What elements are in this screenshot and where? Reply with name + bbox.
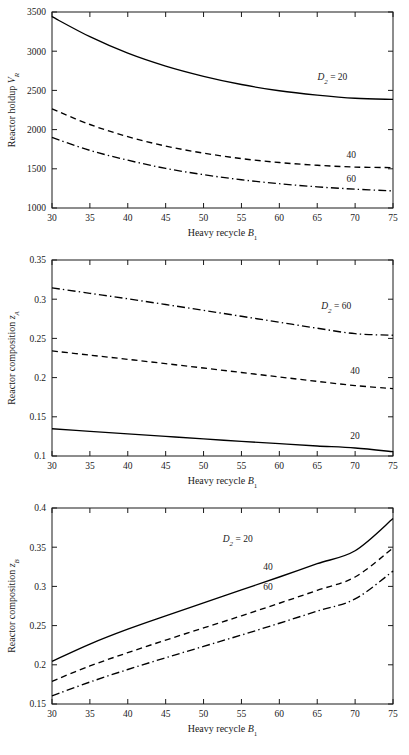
y-tick-label: 0.2 xyxy=(34,660,46,670)
series-line-dashdot xyxy=(52,288,393,335)
x-tick-label: 30 xyxy=(47,461,57,471)
chart-panel-reactor-holdup: 3035404550556065707510001500200025003000… xyxy=(0,0,409,248)
chart-svg-0: 3035404550556065707510001500200025003000… xyxy=(0,0,409,248)
y-tick-label: 1500 xyxy=(27,164,46,174)
x-tick-label: 65 xyxy=(312,709,322,719)
y-tick-label: 3000 xyxy=(27,47,46,57)
series-line-dashdot xyxy=(52,571,393,696)
y-tick-label: 0.25 xyxy=(29,621,46,631)
x-tick-label: 40 xyxy=(123,461,133,471)
y-axis-title: Reactor composition zB xyxy=(6,558,21,652)
chart-svg-2: 303540455055606570750.150.20.250.30.350.… xyxy=(0,496,409,744)
y-tick-label: 2500 xyxy=(27,86,46,96)
plot-frame xyxy=(52,12,393,208)
series-inline-label: 20 xyxy=(350,431,360,441)
x-tick-label: 50 xyxy=(199,461,209,471)
x-tick-label: 35 xyxy=(85,709,95,719)
chart-svg-1: 303540455055606570750.10.150.20.250.30.3… xyxy=(0,248,409,496)
series-line-dashed xyxy=(52,351,393,389)
series-inline-label: D2 = 20 xyxy=(222,534,253,548)
x-tick-label: 60 xyxy=(275,213,285,223)
series-line-dashdot xyxy=(52,137,393,190)
x-tick-label: 60 xyxy=(275,709,285,719)
x-tick-label: 40 xyxy=(123,709,133,719)
x-tick-label: 55 xyxy=(237,461,247,471)
x-tick-label: 65 xyxy=(312,461,322,471)
y-tick-label: 2000 xyxy=(27,125,46,135)
svg-text:Reactor composition zA: Reactor composition zA xyxy=(6,310,21,404)
series-line-dashed xyxy=(52,548,393,681)
y-tick-label: 0.1 xyxy=(34,451,46,461)
x-tick-label: 75 xyxy=(388,709,398,719)
x-axis-title: Heavy recycle B1 xyxy=(188,227,258,242)
x-tick-label: 35 xyxy=(85,461,95,471)
y-tick-label: 1000 xyxy=(27,203,46,213)
x-tick-label: 45 xyxy=(161,709,171,719)
x-tick-label: 50 xyxy=(199,213,209,223)
series-inline-label: 40 xyxy=(350,366,360,376)
y-tick-label: 0.15 xyxy=(29,412,46,422)
y-tick-label: 0.35 xyxy=(29,255,46,265)
x-tick-label: 60 xyxy=(275,461,285,471)
y-tick-label: 0.3 xyxy=(34,582,46,592)
chart-panel-reactor-composition-zb: 303540455055606570750.150.20.250.30.350.… xyxy=(0,496,409,744)
svg-text:Reactor holdup VR: Reactor holdup VR xyxy=(6,72,21,147)
x-axis-title: Heavy recycle B1 xyxy=(188,723,258,738)
x-tick-label: 50 xyxy=(199,709,209,719)
x-tick-label: 45 xyxy=(161,213,171,223)
series-inline-label: D2 = 60 xyxy=(320,301,351,315)
x-tick-label: 45 xyxy=(161,461,171,471)
series-line-solid xyxy=(52,17,393,100)
y-axis-title: Reactor holdup VR xyxy=(6,72,21,147)
x-tick-label: 70 xyxy=(350,709,360,719)
chart-panel-reactor-composition-za: 303540455055606570750.10.150.20.250.30.3… xyxy=(0,248,409,496)
x-tick-label: 30 xyxy=(47,709,57,719)
y-tick-label: 0.35 xyxy=(29,543,46,553)
x-tick-label: 55 xyxy=(237,213,247,223)
series-inline-label: 60 xyxy=(263,582,273,592)
series-line-solid xyxy=(52,429,393,452)
x-tick-label: 70 xyxy=(350,213,360,223)
y-axis-title: Reactor composition zA xyxy=(6,310,21,404)
series-inline-label: 40 xyxy=(263,562,273,572)
x-tick-label: 40 xyxy=(123,213,133,223)
x-tick-label: 75 xyxy=(388,461,398,471)
y-tick-label: 0.2 xyxy=(34,373,46,383)
y-tick-label: 3500 xyxy=(27,7,46,17)
svg-text:Reactor composition zB: Reactor composition zB xyxy=(6,558,21,652)
series-inline-label: D2 = 20 xyxy=(316,72,347,86)
y-tick-label: 0.15 xyxy=(29,699,46,709)
y-tick-label: 0.4 xyxy=(34,503,46,513)
series-line-dashed xyxy=(52,109,393,168)
x-axis-title: Heavy recycle B1 xyxy=(188,475,258,490)
x-tick-label: 70 xyxy=(350,461,360,471)
figure-three-panel-line-charts: 3035404550556065707510001500200025003000… xyxy=(0,0,409,755)
y-tick-label: 0.25 xyxy=(29,334,46,344)
x-tick-label: 55 xyxy=(237,709,247,719)
series-inline-label: 40 xyxy=(347,150,357,160)
y-tick-label: 0.3 xyxy=(34,295,46,305)
plot-frame xyxy=(52,260,393,456)
x-tick-label: 65 xyxy=(312,213,322,223)
x-tick-label: 75 xyxy=(388,213,398,223)
x-tick-label: 35 xyxy=(85,213,95,223)
x-tick-label: 30 xyxy=(47,213,57,223)
series-inline-label: 60 xyxy=(347,174,357,184)
